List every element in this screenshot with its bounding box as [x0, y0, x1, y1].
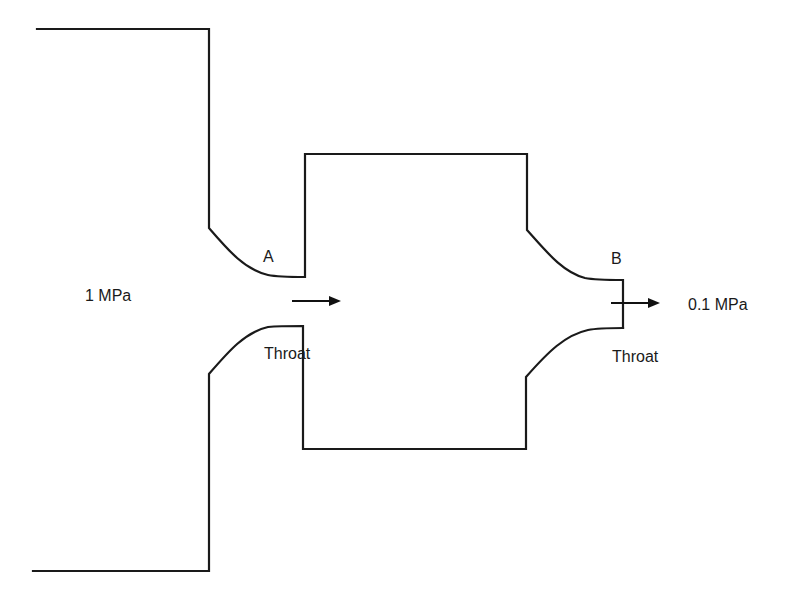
lower-wall: [33, 326, 623, 571]
nozzle-diagram: 1 MPa A Throat B Throat 0.1 MPa: [0, 0, 792, 603]
inlet-pressure-label: 1 MPa: [85, 287, 131, 304]
outlet-pressure-label: 0.1 MPa: [688, 296, 748, 313]
throat-b-label: Throat: [612, 348, 659, 365]
nozzle-a-label: A: [263, 248, 274, 265]
flow-arrow-throat-b: [611, 298, 660, 308]
throat-a-label: Throat: [264, 345, 311, 362]
upper-wall: [37, 29, 623, 328]
flow-arrow-throat-a: [292, 296, 341, 306]
nozzle-b-label: B: [611, 250, 622, 267]
